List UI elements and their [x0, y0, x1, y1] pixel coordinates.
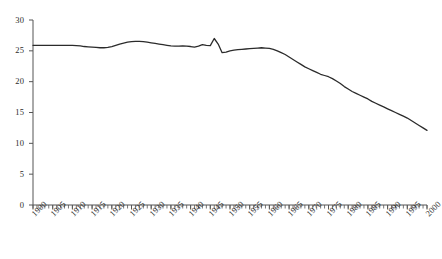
- data-line-series-1: [33, 39, 427, 131]
- y-tick-label: 15: [2, 108, 24, 117]
- y-tick-label: 25: [2, 46, 24, 55]
- y-tick-label: 20: [2, 77, 24, 86]
- y-tick-label: 0: [2, 201, 24, 210]
- chart-plot-area: [0, 0, 442, 259]
- y-tick-label: 5: [2, 170, 24, 179]
- y-tick-label: 10: [2, 139, 24, 148]
- line-chart: 051015202530 190019051910191519201925193…: [0, 0, 442, 259]
- y-tick-label: 30: [2, 16, 24, 25]
- y-axis-ticks: [29, 20, 33, 205]
